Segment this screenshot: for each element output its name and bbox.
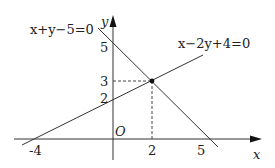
x-tick-5: 5 bbox=[197, 143, 205, 158]
coordinate-diagram: x+y−5=0 x−2y+4=0 y x O 5 3 2 -4 2 5 bbox=[0, 0, 275, 168]
y-axis-label: y bbox=[100, 14, 109, 29]
x-axis-arrow-icon bbox=[250, 136, 262, 143]
x-tick-2: 2 bbox=[148, 143, 156, 158]
y-axis-arrow-icon bbox=[110, 15, 117, 27]
equation-label-1: x+y−5=0 bbox=[30, 22, 94, 37]
equation-label-2: x−2y+4=0 bbox=[178, 36, 250, 51]
y-tick-5: 5 bbox=[100, 40, 108, 55]
x-axis bbox=[14, 136, 262, 143]
x-tick-neg4: -4 bbox=[29, 143, 42, 158]
origin-label: O bbox=[115, 124, 126, 139]
y-tick-3: 3 bbox=[100, 74, 108, 89]
intersection-point bbox=[150, 79, 155, 84]
x-axis-label: x bbox=[253, 147, 261, 162]
y-tick-2: 2 bbox=[100, 91, 108, 106]
